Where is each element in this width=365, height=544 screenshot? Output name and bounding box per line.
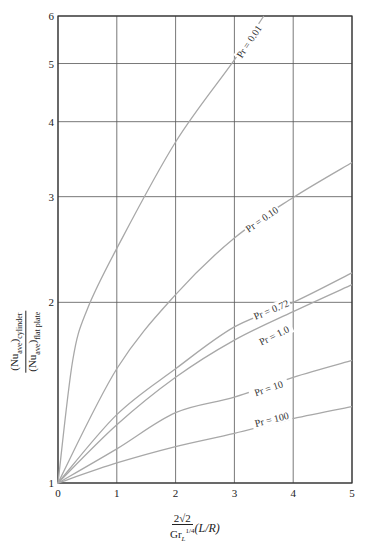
curve-10 xyxy=(58,360,352,483)
curve-0.10 xyxy=(58,163,352,483)
y-tick-label: 1 xyxy=(49,477,55,489)
curve-labels: Pr = 0.01Pr = 0.10Pr = 0.72Pr = 1.0Pr = … xyxy=(233,22,294,430)
grid-lines xyxy=(58,16,352,483)
y-tick-label: 5 xyxy=(49,58,55,70)
curve-label: Pr = 0.10 xyxy=(243,204,280,234)
plot-frame xyxy=(58,16,352,483)
x-tick-label: 0 xyxy=(55,487,61,499)
x-tick-label: 5 xyxy=(349,487,355,499)
curve-label: Pr = 0.01 xyxy=(234,23,264,60)
y-tick-label: 6 xyxy=(49,10,55,22)
y-tick-label: 4 xyxy=(49,116,55,128)
curve-0.01 xyxy=(58,16,264,483)
curve-1.0 xyxy=(58,285,352,483)
x-tick-label: 1 xyxy=(114,487,120,499)
y-tick-label: 2 xyxy=(49,296,55,308)
x-tick-label: 3 xyxy=(232,487,238,499)
chart-svg: Pr = 0.01Pr = 0.10Pr = 0.72Pr = 1.0Pr = … xyxy=(0,0,365,544)
curve-label: Pr = 100 xyxy=(254,410,290,429)
curve-label: Pr = 0.72 xyxy=(252,298,290,322)
axis-ticks: 012345123456 xyxy=(49,10,356,499)
curve-label: Pr = 1.0 xyxy=(257,324,291,348)
curve-label: Pr = 10 xyxy=(253,378,284,398)
x-axis-label: 2√2 GrL1/4 (L/R) xyxy=(170,512,220,544)
x-tick-label: 4 xyxy=(290,487,296,499)
y-tick-label: 3 xyxy=(49,191,55,203)
curves xyxy=(58,16,352,483)
y-axis-label: (Nuave)cylinder (Nuave)flat plate xyxy=(6,262,36,422)
x-tick-label: 2 xyxy=(173,487,179,499)
curve-100 xyxy=(58,407,352,483)
